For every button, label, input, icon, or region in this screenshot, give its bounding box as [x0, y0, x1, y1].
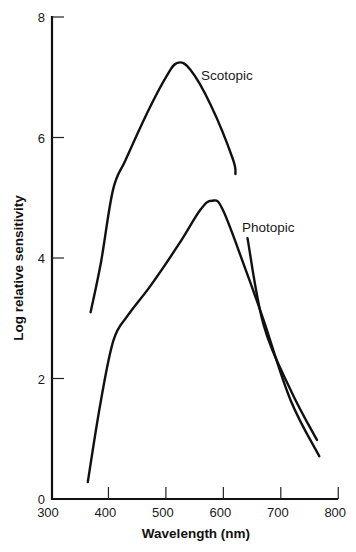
plot-area — [88, 62, 319, 482]
x-tick-label: 400 — [95, 505, 117, 520]
x-tick-label: 600 — [209, 505, 231, 520]
x-axis-title: Wavelength (nm) — [142, 526, 250, 541]
x-tick-label: 500 — [152, 505, 174, 520]
x-tick-label: 700 — [267, 505, 289, 520]
x-tick-label: 300 — [37, 505, 59, 520]
sensitivity-chart: 02468 300400500600700800 Scotopic Photop… — [0, 0, 356, 552]
scotopic-curve-lower-segment — [248, 238, 318, 440]
y-tick-label: 6 — [38, 131, 45, 146]
y-axis-title: Log relative sensitivity — [11, 195, 26, 341]
photopic-curve — [88, 200, 319, 482]
scotopic-label: Scotopic — [201, 68, 253, 83]
y-axis-ticks: 02468 — [38, 10, 64, 507]
axes — [51, 16, 338, 500]
y-tick-label: 2 — [38, 372, 45, 387]
scotopic-curve — [91, 62, 236, 312]
x-tick-label: 800 — [324, 505, 346, 520]
y-tick-label: 4 — [38, 251, 45, 266]
photopic-label: Photopic — [242, 220, 295, 235]
x-axis-ticks: 300400500600700800 — [37, 487, 346, 520]
y-tick-label: 8 — [38, 10, 45, 25]
